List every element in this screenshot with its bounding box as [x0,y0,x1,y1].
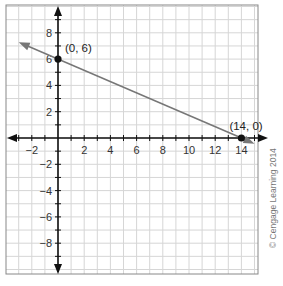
grid [6,5,258,274]
y-tick-label: 8 [46,27,52,39]
data-point-label: (0, 6) [65,42,92,54]
y-tick-label: −6 [39,211,52,223]
x-tick-label: 10 [183,144,195,156]
data-point [54,56,61,63]
y-tick-label: −8 [39,237,52,249]
x-tick-label: 4 [107,144,113,156]
x-tick-label: −2 [26,144,39,156]
x-tick-label: 2 [81,144,87,156]
data-point [238,134,245,141]
x-tick-label: 6 [134,144,140,156]
x-tick-label: 12 [209,144,221,156]
data-point-label: (14, 0) [229,120,262,132]
plot-frame [6,5,258,274]
x-tick-label: 8 [160,144,166,156]
y-tick-label: 4 [46,79,52,91]
x-tick-label: 14 [235,144,247,156]
points: (0, 6)(14, 0) [54,42,262,141]
y-tick-label: 2 [46,106,52,118]
y-tick-label: −2 [39,158,52,170]
y-axis-top-arrow [54,6,62,16]
x-axis-right-arrow [258,134,268,142]
x-axis-left-arrow [7,134,17,142]
coordinate-plane: −224681012148642−2−4−6−8 (0, 6)(14, 0) ©… [0,0,283,286]
credit-text: © Cengage Learning 2014 [268,148,278,248]
y-tick-label: −4 [39,185,52,197]
